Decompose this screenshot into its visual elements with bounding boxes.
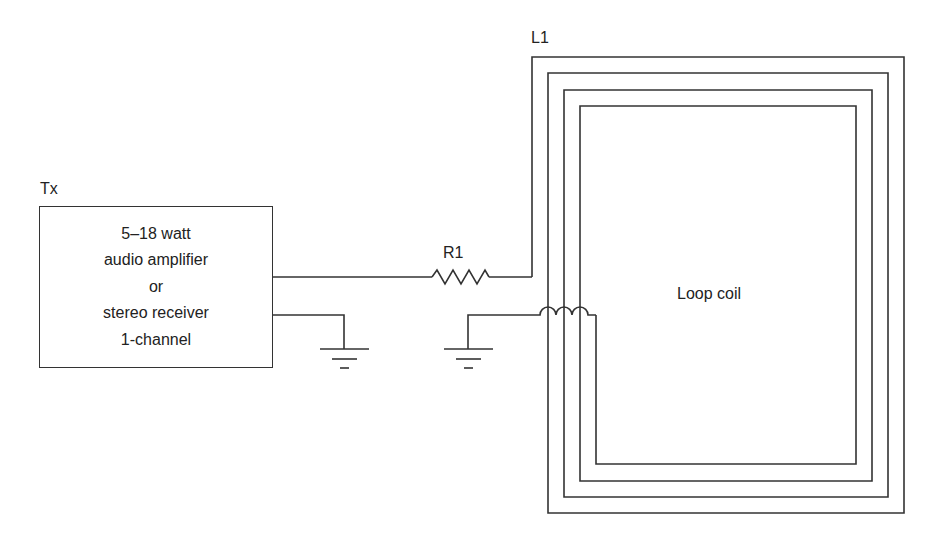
tx-line-2: audio amplifier [104,247,208,274]
transmitter-box: 5–18 watt audio amplifier or stereo rece… [39,206,273,368]
circuit-diagram: Tx 5–18 watt audio amplifier or stereo r… [0,0,934,539]
tx-label: Tx [40,180,58,198]
resistor-label: R1 [443,244,463,262]
ground-wire-tx [273,315,344,349]
tx-line-5: 1-channel [121,327,191,354]
resistor-r1-symbol [432,270,489,284]
inductor-label: L1 [531,29,549,47]
inductor-l1-crossover [468,307,596,349]
tx-line-3: or [149,274,163,301]
tx-line-4: stereo receiver [103,300,209,327]
loop-coil-label: Loop coil [677,285,741,303]
tx-line-1: 5–18 watt [121,221,190,248]
